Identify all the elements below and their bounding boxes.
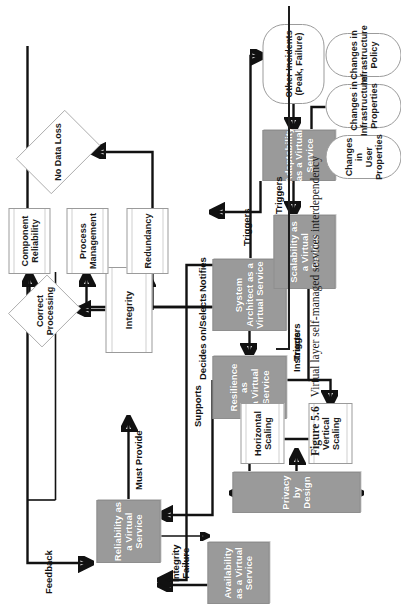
node-changes-in-infrastructure-policy: Changes in Infrastructure Policy bbox=[325, 33, 401, 77]
figure-caption-text: Virtual layer self-managed services inte… bbox=[309, 156, 321, 397]
node-changes-in-infrastructure-properties: Changes in Infrastructure Properties bbox=[325, 84, 401, 128]
node-availability-as-a-virtual-service: Availability as a Virtual Service bbox=[207, 542, 269, 604]
edge-label-decides-on-selects: Decides on/Selects bbox=[196, 293, 207, 380]
edge-label-notifies: Notifies bbox=[196, 257, 207, 292]
node-changes-in-user-properties: Changes in User Properties bbox=[325, 135, 401, 179]
edge-label-supports: Supports bbox=[191, 385, 202, 427]
figure-border-foot bbox=[276, 348, 290, 350]
edge-label-triggers-scalability: Triggers bbox=[272, 177, 283, 215]
decision-no-data-loss-label: No Data Loss bbox=[52, 123, 62, 181]
node-horizontal-scaling: Horizontal Scaling bbox=[240, 403, 284, 464]
figure-number: Figure 5.6 bbox=[309, 406, 321, 456]
node-horizontal-scaling-label: Horizontal Scaling bbox=[245, 404, 278, 463]
node-integrity-label: Integrity bbox=[111, 268, 146, 352]
decision-correct-processing: Correct Processing bbox=[10, 272, 78, 350]
edge-label-feedback: Feedback bbox=[42, 550, 53, 594]
figure-border-rule bbox=[288, 6, 290, 350]
edge-label-integrity-failure: Integrity Failure bbox=[170, 545, 191, 582]
figure-caption: Figure 5.6Virtual layer self-managed ser… bbox=[295, 0, 335, 612]
node-component-reliability-label: Component Reliability bbox=[13, 209, 45, 273]
edge-label-must-provide: Must Provide bbox=[132, 430, 143, 490]
node-integrity: Integrity bbox=[105, 267, 152, 353]
edge-label-triggers-architect: Triggers bbox=[240, 209, 251, 247]
node-component-reliability: Component Reliability bbox=[8, 208, 50, 274]
node-reliability-as-a-virtual-service: Reliability as a Virtual Service bbox=[96, 500, 160, 563]
node-process-management-label: Process Management bbox=[71, 209, 103, 273]
node-redundancy-label: Redundancy bbox=[131, 209, 163, 273]
decision-no-data-loss: No Data Loss bbox=[22, 103, 93, 201]
node-redundancy: Redundancy bbox=[126, 208, 168, 274]
node-process-management: Process Management bbox=[66, 208, 108, 274]
decision-correct-processing-label: Correct Processing bbox=[34, 287, 54, 336]
